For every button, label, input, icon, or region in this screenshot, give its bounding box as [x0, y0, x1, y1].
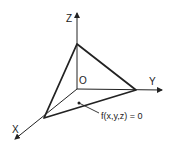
origin-label: O — [79, 76, 87, 86]
surface-equation-label: f(x,y,z) = 0 — [101, 112, 143, 121]
y-axis — [77, 89, 162, 90]
diagram-canvas: Z Y X O f(x,y,z) = 0 — [0, 0, 169, 151]
y-axis-label: Y — [149, 77, 156, 87]
plane-triangle — [44, 44, 136, 118]
x-axis-label: X — [12, 125, 19, 135]
z-axis-label: Z — [66, 14, 72, 24]
